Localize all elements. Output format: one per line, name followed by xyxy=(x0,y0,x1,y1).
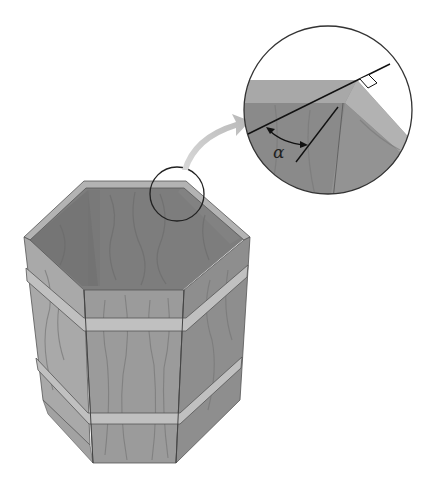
bucket xyxy=(24,181,250,463)
magnified-detail: α xyxy=(240,20,420,200)
angle-label-alpha: α xyxy=(273,142,285,162)
callout-arrow xyxy=(182,114,250,170)
bucket-diagram: α xyxy=(0,0,429,481)
